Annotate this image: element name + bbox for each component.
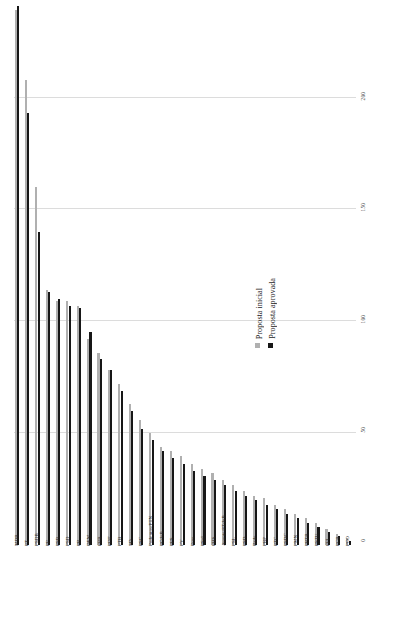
bar-group bbox=[243, 8, 253, 545]
bar-group bbox=[211, 8, 221, 545]
bar-group bbox=[66, 8, 76, 545]
category-label: PSDB bbox=[34, 533, 39, 546]
bar-group bbox=[305, 8, 315, 545]
category-label: PPL bbox=[325, 537, 330, 546]
bar-proposta-aprovada bbox=[100, 359, 102, 545]
bar-proposta-aprovada bbox=[110, 370, 112, 545]
bar-proposta-aprovada bbox=[214, 480, 216, 545]
axis-tick-label: 100 bbox=[360, 315, 366, 323]
bar-group bbox=[108, 8, 118, 545]
axis-tick-label: 150 bbox=[360, 203, 366, 211]
category-label: PCdoB bbox=[159, 531, 164, 546]
bar-proposta-aprovada bbox=[89, 332, 91, 545]
bar-proposta-aprovada bbox=[58, 299, 60, 545]
bar-group bbox=[315, 8, 325, 545]
bar-group bbox=[170, 8, 180, 545]
bar-group bbox=[25, 8, 35, 545]
chart-root: MDBPTPSDBPPPSBPSDPRDEMPRBPDTPTBSDPSCPode… bbox=[0, 0, 394, 620]
bar-proposta-aprovada bbox=[27, 113, 29, 545]
bars-layer bbox=[14, 8, 356, 545]
bar-proposta-aprovada bbox=[38, 232, 40, 545]
bar-group bbox=[97, 8, 107, 545]
bar-group bbox=[336, 8, 346, 545]
category-label: PPS bbox=[169, 537, 174, 546]
category-label: PCO bbox=[345, 536, 350, 546]
category-label: PV bbox=[179, 539, 184, 546]
bar-group bbox=[15, 8, 25, 545]
category-labels-layer: MDBPTPSDBPPPSBPSDPRDEMPRBPDTPTBSDPSCPode… bbox=[14, 546, 356, 620]
axis-tick-label: 200 bbox=[360, 92, 366, 100]
bar-proposta-aprovada bbox=[193, 471, 195, 545]
category-label: PHS bbox=[211, 537, 216, 546]
category-label: Rede bbox=[252, 535, 257, 546]
bar-group bbox=[129, 8, 139, 545]
chart-legend: Proposta inicialProposta aprovada bbox=[255, 228, 301, 348]
category-label: PRP bbox=[262, 537, 267, 546]
legend-label: Proposta inicial bbox=[255, 288, 264, 339]
category-label: PRB bbox=[97, 536, 102, 546]
bar-group bbox=[346, 8, 356, 545]
category-label: Podemos/PTN bbox=[148, 516, 153, 546]
category-label: PDT bbox=[107, 536, 112, 546]
category-label: PP bbox=[45, 540, 50, 546]
bar-proposta-aprovada bbox=[141, 429, 143, 545]
category-label: SD bbox=[128, 539, 133, 546]
bar-proposta-aprovada bbox=[203, 476, 205, 545]
category-label: PTC bbox=[273, 537, 278, 546]
bar-group bbox=[46, 8, 56, 545]
legend-label: Proposta aprovada bbox=[268, 278, 277, 339]
bar-proposta-aprovada bbox=[172, 458, 174, 545]
category-label: PSol bbox=[200, 536, 205, 546]
bar-group bbox=[222, 8, 232, 545]
bar-group bbox=[118, 8, 128, 545]
bar-group bbox=[160, 8, 170, 545]
bar-group bbox=[325, 8, 335, 545]
bar-group bbox=[201, 8, 211, 545]
bar-group bbox=[139, 8, 149, 545]
bar-proposta-aprovada bbox=[48, 292, 50, 545]
category-label: Avante/PTdoB bbox=[221, 515, 226, 546]
bar-proposta-aprovada bbox=[79, 308, 81, 545]
axis-tick-label: 0 bbox=[360, 539, 366, 542]
bar-group bbox=[191, 8, 201, 545]
legend-swatch bbox=[268, 343, 273, 348]
bar-proposta-aprovada bbox=[121, 391, 123, 545]
category-label: MDB bbox=[14, 534, 19, 546]
bar-group bbox=[56, 8, 66, 545]
axis-tick-label: 50 bbox=[360, 427, 366, 433]
category-label: PSL bbox=[231, 537, 236, 546]
bar-group bbox=[87, 8, 97, 545]
category-label: PSD bbox=[65, 537, 70, 546]
category-label: Pros bbox=[190, 537, 195, 546]
category-label: PTB bbox=[117, 537, 122, 546]
category-label: PMN bbox=[293, 535, 298, 546]
category-label: DEM bbox=[86, 535, 91, 546]
category-label: PSB bbox=[55, 537, 60, 546]
category-label: PR bbox=[76, 540, 81, 546]
bar-proposta-aprovada bbox=[69, 306, 71, 545]
category-label: PSC bbox=[138, 537, 143, 546]
category-label: PRTB bbox=[304, 533, 309, 546]
bar-group bbox=[180, 8, 190, 545]
category-label: PCB bbox=[335, 536, 340, 546]
legend-swatch bbox=[255, 343, 260, 348]
category-label: PSDC bbox=[283, 533, 288, 546]
bar-group bbox=[77, 8, 87, 545]
bar-proposta-aprovada bbox=[17, 6, 19, 545]
bar-proposta-aprovada bbox=[131, 411, 133, 545]
category-label: PSTU bbox=[314, 533, 319, 546]
category-label: PSD bbox=[242, 537, 247, 546]
bar-group bbox=[35, 8, 45, 545]
bar-group bbox=[232, 8, 242, 545]
bar-proposta-aprovada bbox=[183, 464, 185, 545]
category-label: PT bbox=[24, 540, 29, 546]
bar-group bbox=[149, 8, 159, 545]
